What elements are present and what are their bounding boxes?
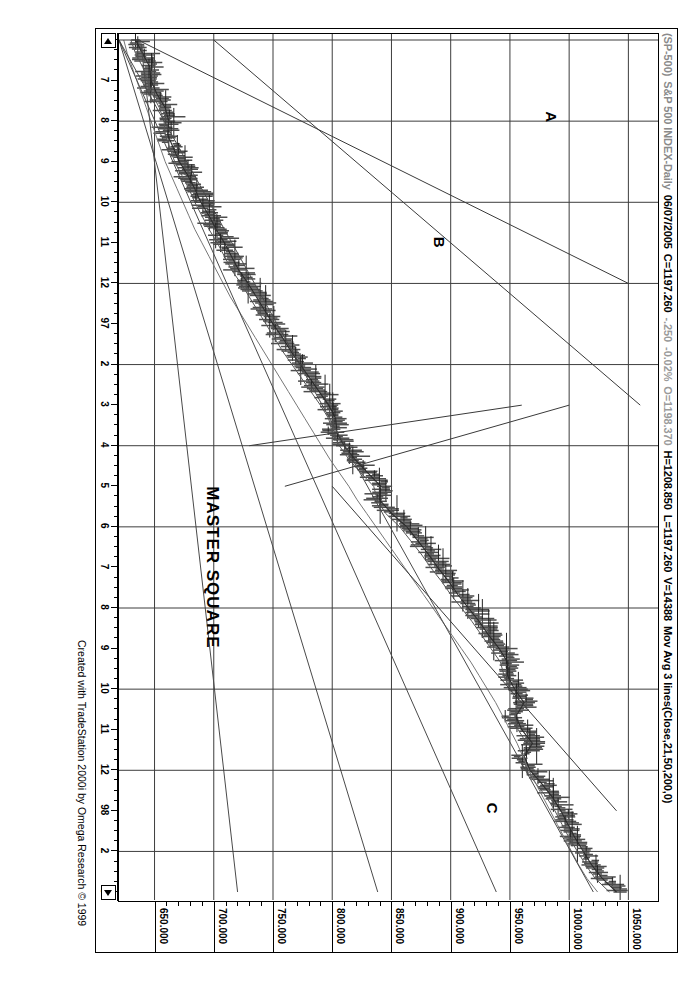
scroll-right-button[interactable] [101,885,116,900]
date-minor-tick [114,556,117,557]
date-minor-tick [114,637,117,638]
price-minor-tick [545,902,546,906]
date-minor-tick [114,100,117,101]
price-minor-tick [249,902,250,906]
date-minor-tick [114,435,117,436]
price-tick-label-7: 700.000 [217,908,227,944]
chart-window: (SP-500)S&P 500 INDEX-Daily06/07/2005C=1… [95,28,678,953]
scroll-left-button[interactable] [101,33,116,48]
trendline-master-square-diagonal-2 [138,40,628,283]
date-tick-label-19: 98 [99,804,110,815]
date-minor-tick [114,475,117,476]
date-minor-tick [114,495,117,496]
triangle-right-icon [104,890,112,896]
price-tick-0 [628,902,629,952]
date-minor-tick [114,313,117,314]
price-tick-3 [451,902,452,952]
date-tick-13 [111,566,117,567]
date-minor-tick [114,151,117,152]
plot-inner [119,34,658,901]
date-minor-tick [114,191,117,192]
price-tick-label-4: 850.000 [394,908,404,944]
price-minor-tick [166,902,167,906]
date-minor-tick [114,171,117,172]
date-minor-tick [114,211,117,212]
price-minor-tick [368,902,369,906]
price-minor-tick [320,902,321,906]
indicator-label: Mov Avg 3 lines(Close,21,50,200,0) [662,626,674,803]
price-minor-tick [178,902,179,906]
date-minor-tick [114,353,117,354]
price-minor-tick [356,902,357,906]
date-minor-tick [114,384,117,385]
date-tick-label-9: 3 [99,401,110,407]
instrument-name: S&P 500 INDEX-Daily [662,81,674,190]
price-tick-2 [510,902,511,952]
date-minor-tick [114,830,117,831]
date-tick-20 [111,850,117,851]
date-tick-label-2: 8 [99,117,110,123]
price-minor-tick [474,902,475,906]
price-minor-tick [427,902,428,906]
master-square-fan-0 [119,40,593,892]
date-minor-tick [114,303,117,304]
date-minor-tick [114,465,117,466]
date-tick-3 [111,161,117,162]
quote-change: -.250 [662,318,674,343]
date-minor-tick [114,719,117,720]
date-tick-6 [111,282,117,283]
trendline-master-square-diagonal-1 [214,40,640,405]
date-minor-tick [114,333,117,334]
price-minor-tick [226,902,227,906]
date-tick-label-18: 12 [99,764,110,775]
price-plot-area[interactable]: A B C MASTER SQUARE [118,33,659,901]
price-minor-tick [344,902,345,906]
price-axis[interactable]: 1050.0001000.000950.000900.000850.000800… [118,901,659,951]
date-minor-tick [114,232,117,233]
price-tick-6 [273,902,274,952]
date-minor-tick [114,69,117,70]
price-tick-label-8: 650.000 [158,908,168,944]
trendline-fan-line-a [332,486,616,811]
date-minor-tick [114,678,117,679]
price-minor-tick [309,902,310,906]
price-minor-tick [498,902,499,906]
date-tick-19 [111,810,117,811]
price-minor-tick [522,902,523,906]
moving-average-line-21 [136,40,617,892]
date-minor-tick [114,110,117,111]
date-minor-tick [114,90,117,91]
date-minor-tick [114,840,117,841]
date-tick-label-6: 12 [99,277,110,288]
date-minor-tick [114,861,117,862]
date-minor-tick [114,59,117,60]
date-axis[interactable]: 678910111297234567891011129823 [94,33,118,901]
quote-header: (SP-500)S&P 500 INDEX-Daily06/07/2005C=1… [661,33,675,808]
date-tick-label-4: 10 [99,196,110,207]
date-minor-tick [114,516,117,517]
date-minor-tick [114,800,117,801]
date-minor-tick [114,546,117,547]
date-tick-label-14: 8 [99,604,110,610]
price-minor-tick [534,902,535,906]
price-tick-label-0: 1050.000 [631,908,641,950]
date-minor-tick [114,749,117,750]
date-tick-7 [111,323,117,324]
date-minor-tick [114,262,117,263]
date-tick-18 [111,769,117,770]
date-tick-16 [111,688,117,689]
date-minor-tick [114,759,117,760]
price-minor-tick [593,902,594,906]
master-square-fan-1 [119,40,496,892]
date-minor-tick [114,49,117,50]
date-minor-tick [114,293,117,294]
date-minor-tick [114,130,117,131]
price-chart-svg [119,34,658,900]
date-minor-tick [114,820,117,821]
date-tick-9 [111,404,117,405]
price-tick-5 [332,902,333,952]
symbol-label: (SP-500) [662,33,674,76]
price-minor-tick [297,902,298,906]
price-minor-tick [261,902,262,906]
quote-low: L=1197.260 [662,515,674,572]
